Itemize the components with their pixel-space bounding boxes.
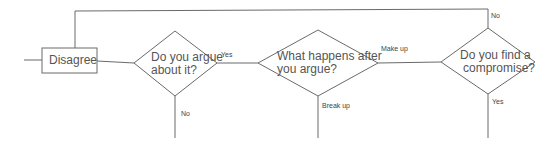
edge-compromise-no-loop — [75, 9, 488, 48]
edge-label-argue-yes: Yes — [221, 51, 232, 59]
node-after-label-line2: you argue? — [277, 63, 337, 76]
edge-label-argue-no: No — [181, 110, 190, 118]
node-disagree-label: Disagree — [49, 54, 97, 67]
node-compromise-label-line2: compromise? — [463, 62, 535, 75]
edge-label-makeup: Make up — [381, 45, 408, 53]
edge-label-breakup: Break up — [322, 102, 350, 110]
edge-after-makeup — [378, 62, 441, 63]
edge-label-compromise-no: No — [491, 12, 500, 20]
node-argue-label-line2: about it? — [151, 64, 197, 77]
edge-disagree-to-argue — [97, 61, 134, 63]
edge-label-compromise-yes: Yes — [492, 98, 503, 106]
